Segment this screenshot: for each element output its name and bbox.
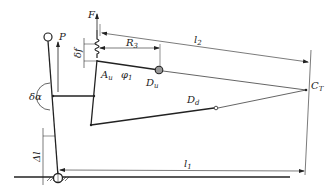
linkage-diagram: P δα F δf Au φ1 Du Dd CT l2 R3 Δl l [0,0,335,185]
label-Au: Au [100,69,113,82]
diagram-canvas: P δα F δf Au φ1 Du Dd CT l2 R3 Δl l [0,0,335,185]
label-l1: l1 [184,158,192,171]
node-Dd [214,106,218,110]
node-CT [305,89,308,92]
label-phi1: φ1 [121,69,132,82]
link-Dd-CT [218,90,306,108]
CT-vertical-line [305,50,311,175]
label-delta-f: δf [72,46,83,58]
label-F: F [87,9,96,20]
l1-dimension [60,170,304,171]
top-pin [44,33,52,41]
label-Dd: Dd [186,94,200,107]
link-Du-CT [163,71,306,90]
label-delta-l: Δl [31,152,42,163]
right-lever [91,60,97,125]
left-lever [48,41,58,176]
label-delta-alpha: δα [29,91,42,102]
node-Du [155,66,163,74]
label-Du: Du [145,77,159,90]
lower-link [91,108,214,125]
label-P: P [58,31,66,42]
label-CT: CT [311,80,325,93]
label-l2: l2 [194,34,202,47]
